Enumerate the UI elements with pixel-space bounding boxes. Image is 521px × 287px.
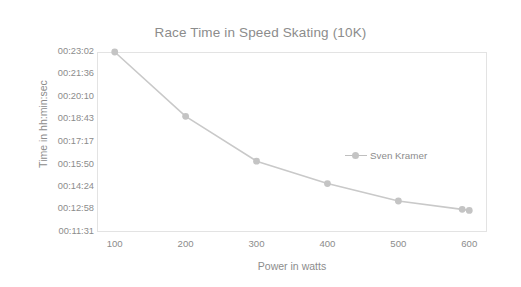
x-axis-tick-label: 500 bbox=[378, 238, 418, 249]
legend-marker-icon bbox=[345, 151, 367, 160]
x-axis-title: Power in watts bbox=[97, 260, 487, 272]
x-axis-tick-label: 100 bbox=[95, 238, 135, 249]
chart-legend: Sven Kramer bbox=[345, 150, 427, 161]
x-axis-tick-label: 600 bbox=[449, 238, 489, 249]
x-axis-tick-label: 400 bbox=[307, 238, 347, 249]
x-axis-tick-labels: 100200300400500600 bbox=[0, 0, 521, 287]
chart-container: Race Time in Speed Skating (10K) Time in… bbox=[0, 0, 521, 287]
x-axis-tick-label: 300 bbox=[237, 238, 277, 249]
legend-label-sven-kramer: Sven Kramer bbox=[370, 150, 427, 161]
x-axis-tick-label: 200 bbox=[166, 238, 206, 249]
